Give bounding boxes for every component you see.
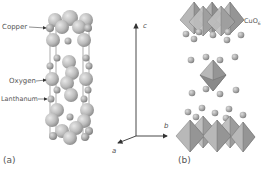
atoms-bottom-layer (45, 103, 94, 145)
axes-triad: c b a (112, 22, 169, 155)
octahedra-top-row (180, 2, 244, 36)
axis-b-label: b (164, 122, 169, 130)
atoms-top-layer (46, 10, 93, 47)
panel-a-caption: (a) (3, 155, 16, 165)
octahedra-bottom-row (176, 116, 255, 152)
axis-a-label: a (112, 147, 116, 155)
axis-c-label: c (143, 22, 147, 30)
panel-b-caption: (b) (178, 155, 191, 165)
cuo6-label: CuO6 (244, 17, 261, 26)
oxygen-label: Oxygen (9, 77, 36, 85)
a-axis (118, 136, 136, 143)
atoms-above-bottom (185, 105, 247, 122)
copper-label: Copper (2, 23, 27, 31)
label-oxygen: Oxygen (9, 77, 46, 85)
octahedron-middle (200, 60, 226, 91)
unit-cell-a (45, 10, 94, 145)
lanthanum-label: Lanthanum (1, 95, 38, 103)
label-lanthanum: Lanthanum (1, 95, 47, 103)
crystal-structure-figure: Copper Oxygen Lanthanum (a) c b a (0, 0, 272, 172)
atoms-middle-layer (45, 55, 93, 103)
label-copper: Copper (2, 23, 46, 31)
octahedra-panel-b: CuO6 (176, 2, 261, 152)
